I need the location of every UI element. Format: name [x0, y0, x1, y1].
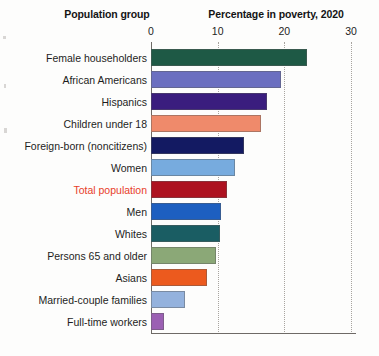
- scan-artifact: [3, 36, 6, 39]
- bar-row: Foreign-born (noncitizens): [0, 136, 379, 158]
- bar-category-label: Married-couple families: [38, 293, 147, 307]
- bar-row: Children under 18: [0, 114, 379, 136]
- bar-row: Men: [0, 202, 379, 224]
- poverty-bar-chart: Population group Percentage in poverty, …: [0, 0, 379, 356]
- bar-category-label: African Americans: [62, 73, 147, 87]
- bar-category-label: Children under 18: [64, 117, 147, 131]
- bar-category-label: Full-time workers: [67, 315, 147, 329]
- column-header-population-group: Population group: [62, 8, 152, 20]
- bar-category-label: Persons 65 and older: [47, 249, 147, 263]
- bar-category-label: Hispanics: [101, 95, 147, 109]
- bar-row: Total population: [0, 180, 379, 202]
- bar-rows: Female householdersAfrican AmericansHisp…: [0, 42, 379, 334]
- bar-row: Women: [0, 158, 379, 180]
- bar: [151, 159, 235, 176]
- bar: [151, 203, 221, 220]
- bar-category-label: Foreign-born (noncitizens): [24, 139, 147, 153]
- bar-row: Full-time workers: [0, 312, 379, 334]
- bar: [151, 115, 261, 132]
- x-tick-label: 0: [148, 25, 154, 37]
- bar-row: Persons 65 and older: [0, 246, 379, 268]
- bar-row: Asians: [0, 268, 379, 290]
- bar: [151, 93, 267, 110]
- bar: [151, 49, 307, 66]
- bar-row: Whites: [0, 224, 379, 246]
- bar: [151, 181, 227, 198]
- bar-row: African Americans: [0, 70, 379, 92]
- bar: [151, 313, 164, 330]
- column-header-percentage: Percentage in poverty, 2020: [186, 8, 366, 20]
- x-tick-label: 10: [212, 25, 224, 37]
- bar-category-label: Whites: [115, 227, 147, 241]
- scan-artifact: [4, 84, 6, 88]
- bar: [151, 291, 185, 308]
- bar-category-label: Total population: [73, 183, 147, 197]
- bar-category-label: Female householders: [46, 51, 147, 65]
- bar: [151, 225, 220, 242]
- bar-category-label: Asians: [115, 271, 147, 285]
- bar-row: Female householders: [0, 48, 379, 70]
- bar: [151, 71, 281, 88]
- bar: [151, 137, 244, 154]
- x-tick-label: 30: [345, 25, 357, 37]
- scan-artifact: [4, 128, 7, 133]
- bar: [151, 247, 216, 264]
- x-tick-label: 20: [278, 25, 290, 37]
- bar-category-label: Women: [111, 161, 147, 175]
- bar-category-label: Men: [127, 205, 147, 219]
- bar-row: Hispanics: [0, 92, 379, 114]
- x-axis-tick-labels: 0102030: [0, 25, 379, 39]
- bar: [151, 269, 207, 286]
- bar-row: Married-couple families: [0, 290, 379, 312]
